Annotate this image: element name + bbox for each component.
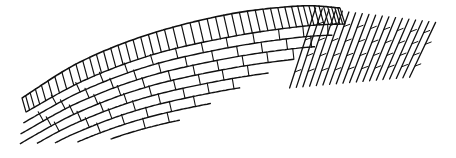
- diagonal-brick-field: [290, 8, 436, 88]
- brick-arch-illustration: [0, 0, 456, 158]
- brick-pattern-drawing: [0, 0, 456, 158]
